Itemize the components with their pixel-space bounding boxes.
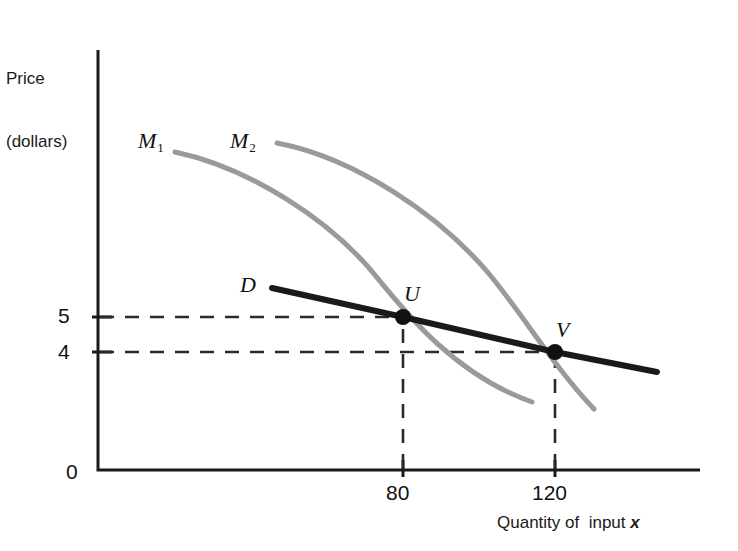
axis-lines <box>98 50 700 470</box>
x-axis-title-variable: x <box>630 513 639 532</box>
point-u-marker <box>395 309 411 325</box>
curve-label-m1: M1 <box>138 128 163 155</box>
curve-m1 <box>175 152 532 402</box>
origin-label: 0 <box>66 459 78 485</box>
curve-label-demand: D <box>240 272 256 299</box>
point-label-v: V <box>556 317 569 344</box>
point-v-marker <box>547 344 563 360</box>
x-tick-label-80: 80 <box>386 480 409 506</box>
point-label-u: U <box>404 281 420 308</box>
y-axis-title-line2: (dollars) <box>6 132 67 153</box>
economics-chart-figure: Price (dollars) 5 4 0 80 120 Quantity of… <box>0 0 738 551</box>
x-axis-title: Quantity of input x <box>497 513 640 534</box>
curve-m2 <box>277 143 594 409</box>
y-tick-label-4: 4 <box>58 339 70 365</box>
curve-demand <box>272 288 657 372</box>
curve-label-m2-subscript: 2 <box>249 140 256 155</box>
curve-label-m2-base: M <box>230 128 248 153</box>
y-axis-title-line1: Price <box>6 69 67 90</box>
chart-plot-area <box>0 0 738 551</box>
curve-label-m2: M2 <box>230 128 255 155</box>
y-axis-title: Price (dollars) <box>6 28 67 194</box>
x-axis-title-text: Quantity of input <box>497 513 630 532</box>
y-tick-label-5: 5 <box>58 303 70 329</box>
x-tick-label-120: 120 <box>532 480 567 506</box>
curve-label-m1-subscript: 1 <box>157 140 164 155</box>
curve-label-m1-base: M <box>138 128 156 153</box>
